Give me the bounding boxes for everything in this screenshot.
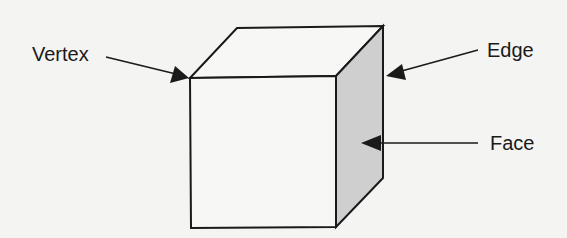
edge-pointer-arrow: [386, 50, 478, 80]
vertex-label: Vertex: [32, 44, 89, 64]
cube-drawing: [0, 0, 567, 238]
edge-label: Edge: [487, 40, 534, 60]
face-pointer-arrow: [361, 135, 478, 151]
cube-front-face: [190, 76, 336, 228]
vertex-pointer-arrow: [106, 57, 189, 83]
cube-diagram: Vertex Edge Face: [0, 0, 567, 238]
face-label: Face: [490, 133, 534, 153]
